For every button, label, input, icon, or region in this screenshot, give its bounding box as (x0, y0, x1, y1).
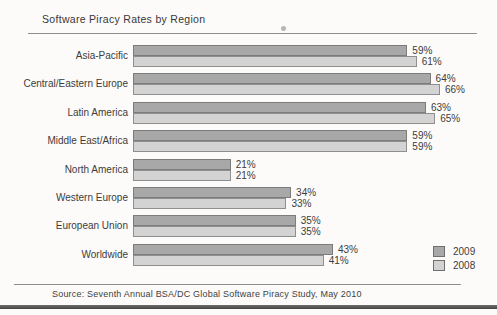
bar-value-label: 34% (296, 187, 316, 198)
bar-line-2009: 64% (133, 73, 465, 84)
bar-2009 (133, 73, 431, 84)
bar-line-2008: 33% (133, 198, 316, 209)
bar-line-2008: 65% (133, 113, 460, 124)
row-bars: 43%41% (133, 244, 358, 266)
chart-row: Western Europe 34%33% (14, 187, 465, 215)
bar-line-2009: 59% (133, 130, 432, 141)
bar-2009 (133, 244, 333, 255)
bar-2008 (133, 255, 324, 266)
chart-row: Asia-Pacific 59%61% (14, 45, 465, 73)
row-label: Latin America (14, 102, 133, 124)
title-rule (28, 33, 477, 34)
page-bottom-edge (0, 305, 497, 309)
bar-value-label: 59% (412, 141, 432, 152)
row-label: North America (14, 159, 133, 181)
bar-value-label: 59% (412, 45, 432, 56)
row-label: Middle East/Africa (14, 130, 133, 152)
bar-line-2008: 59% (133, 141, 432, 152)
chart-row: North America 21%21% (14, 159, 465, 187)
bar-value-label: 35% (301, 215, 321, 226)
bar-value-label: 63% (431, 102, 451, 113)
bar-value-label: 21% (236, 159, 256, 170)
row-label: European Union (14, 215, 133, 237)
bar-2008 (133, 56, 417, 67)
legend-label-2008: 2008 (453, 260, 475, 271)
bar-value-label: 61% (422, 56, 442, 67)
legend-item-2009: 2009 (433, 244, 475, 258)
scanned-chart-page: Software Piracy Rates by Region Asia-Pac… (0, 0, 497, 315)
row-label: Worldwide (14, 244, 133, 266)
row-label: Western Europe (14, 187, 133, 209)
bar-line-2008: 35% (133, 226, 321, 237)
bar-line-2009: 43% (133, 244, 358, 255)
row-bars: 34%33% (133, 187, 316, 209)
source-note: Source: Seventh Annual BSA/DC Global Sof… (52, 289, 362, 299)
row-bars: 59%61% (133, 45, 442, 67)
bar-value-label: 65% (440, 113, 460, 124)
bar-value-label: 41% (329, 255, 349, 266)
legend-swatch-2009 (433, 246, 445, 257)
bar-2009 (133, 187, 291, 198)
bar-line-2009: 34% (133, 187, 316, 198)
bar-value-label: 21% (236, 170, 256, 181)
bar-line-2008: 21% (133, 170, 256, 181)
chart-row: Latin America 63%65% (14, 102, 465, 130)
bar-2008 (133, 170, 231, 181)
bar-chart: Asia-Pacific 59%61% Central/Eastern Euro… (14, 45, 465, 272)
bar-value-label: 43% (338, 244, 358, 255)
bar-line-2009: 63% (133, 102, 460, 113)
row-bars: 63%65% (133, 102, 460, 124)
bar-line-2008: 41% (133, 255, 358, 266)
bar-line-2009: 21% (133, 159, 256, 170)
legend-label-2009: 2009 (453, 246, 475, 257)
chart-title: Software Piracy Rates by Region (42, 13, 205, 25)
source-rule (14, 284, 461, 285)
bar-line-2009: 35% (133, 215, 321, 226)
row-label: Central/Eastern Europe (14, 73, 133, 95)
row-bars: 35%35% (133, 215, 321, 237)
bar-value-label: 35% (301, 226, 321, 237)
chart-row: European Union 35%35% (14, 215, 465, 243)
bar-value-label: 66% (445, 84, 465, 95)
bar-2009 (133, 45, 407, 56)
bar-2008 (133, 113, 435, 124)
legend: 2009 2008 (433, 244, 475, 272)
chart-row: Central/Eastern Europe 64%66% (14, 73, 465, 101)
row-bars: 21%21% (133, 159, 256, 181)
bar-2008 (133, 198, 286, 209)
bar-line-2008: 66% (133, 84, 465, 95)
bar-2008 (133, 84, 440, 95)
bar-2008 (133, 141, 407, 152)
legend-item-2008: 2008 (433, 258, 475, 272)
bar-line-2008: 61% (133, 56, 442, 67)
legend-swatch-2008 (433, 260, 445, 271)
bar-2009 (133, 215, 296, 226)
bar-value-label: 59% (412, 130, 432, 141)
bar-2008 (133, 226, 296, 237)
bar-2009 (133, 102, 426, 113)
row-bars: 59%59% (133, 130, 432, 152)
bar-value-label: 64% (436, 73, 456, 84)
bar-2009 (133, 159, 231, 170)
chart-row: Worldwide 43%41% (14, 244, 465, 272)
row-label: Asia-Pacific (14, 45, 133, 67)
bar-line-2009: 59% (133, 45, 442, 56)
chart-row: Middle East/Africa 59%59% (14, 130, 465, 158)
scan-speck (281, 26, 286, 31)
bar-value-label: 33% (291, 198, 311, 209)
row-bars: 64%66% (133, 73, 465, 95)
bar-2009 (133, 130, 407, 141)
